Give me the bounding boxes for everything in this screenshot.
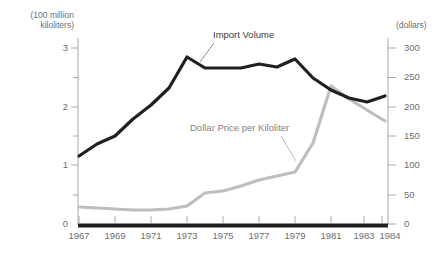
import-volume-leader-line <box>200 43 214 62</box>
y-left-ticks <box>71 48 78 195</box>
dollar-price-line <box>79 86 385 210</box>
y-right-ticks <box>388 48 396 224</box>
dollar-price-leader-line <box>281 136 296 161</box>
axis-lines <box>78 38 388 226</box>
plot-area <box>0 0 443 260</box>
chart-container: (100 million kiloliters) (dollars) 3 2 1… <box>0 0 443 260</box>
import-volume-line <box>79 57 385 156</box>
x-ticks <box>79 216 382 223</box>
